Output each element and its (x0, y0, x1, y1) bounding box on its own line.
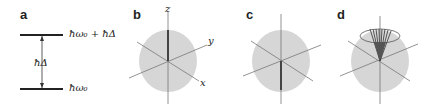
panel-label-a: a (20, 7, 27, 22)
bloch-sphere-c (243, 14, 321, 104)
panel-label-c: c (246, 7, 253, 22)
lower-energy-label: ħω₀ (69, 82, 88, 93)
axis-label-z: z (165, 3, 170, 14)
axis-label-y: y (208, 35, 214, 46)
panel-label-d: d (337, 7, 345, 22)
bloch-sphere-b (129, 12, 207, 104)
panel-label-b: b (133, 7, 141, 22)
energy-gap-label: ħΔ (34, 57, 48, 68)
bloch-sphere-d (340, 16, 418, 104)
diagram-canvas (0, 0, 434, 109)
axis-label-x: x (200, 77, 206, 88)
upper-energy-label: ħω₀ + ħΔ (69, 28, 116, 39)
